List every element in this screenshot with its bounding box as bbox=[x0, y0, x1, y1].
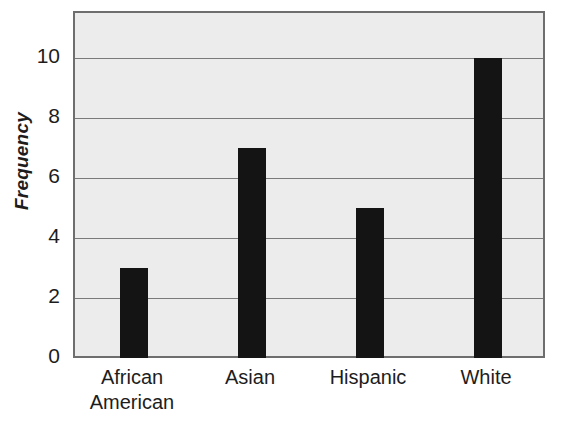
x-tick-label-line1: African bbox=[101, 366, 163, 388]
y-tick-label: 8 bbox=[0, 105, 60, 126]
bar bbox=[356, 208, 384, 358]
y-tick-label: 0 bbox=[0, 345, 60, 366]
y-tick-label: 6 bbox=[0, 165, 60, 186]
gridline bbox=[75, 178, 543, 179]
gridline bbox=[75, 58, 543, 59]
x-tick-label-line1: White bbox=[460, 366, 511, 388]
y-tick-label: 2 bbox=[0, 285, 60, 306]
bar-chart-figure: Frequency 10 8 6 4 2 0 African American … bbox=[0, 0, 563, 425]
bar bbox=[238, 148, 266, 358]
bar bbox=[474, 58, 502, 358]
x-tick-label-line2: American bbox=[57, 390, 207, 415]
plot-area bbox=[73, 11, 545, 358]
bar bbox=[120, 268, 148, 358]
y-tick-label: 10 bbox=[0, 45, 60, 66]
x-tick-label-line1: Hispanic bbox=[330, 366, 407, 388]
gridline bbox=[75, 118, 543, 119]
gridline bbox=[75, 238, 543, 239]
x-tick-label-line1: Asian bbox=[225, 366, 275, 388]
y-tick-label: 4 bbox=[0, 225, 60, 246]
x-tick-label: White bbox=[411, 365, 561, 390]
